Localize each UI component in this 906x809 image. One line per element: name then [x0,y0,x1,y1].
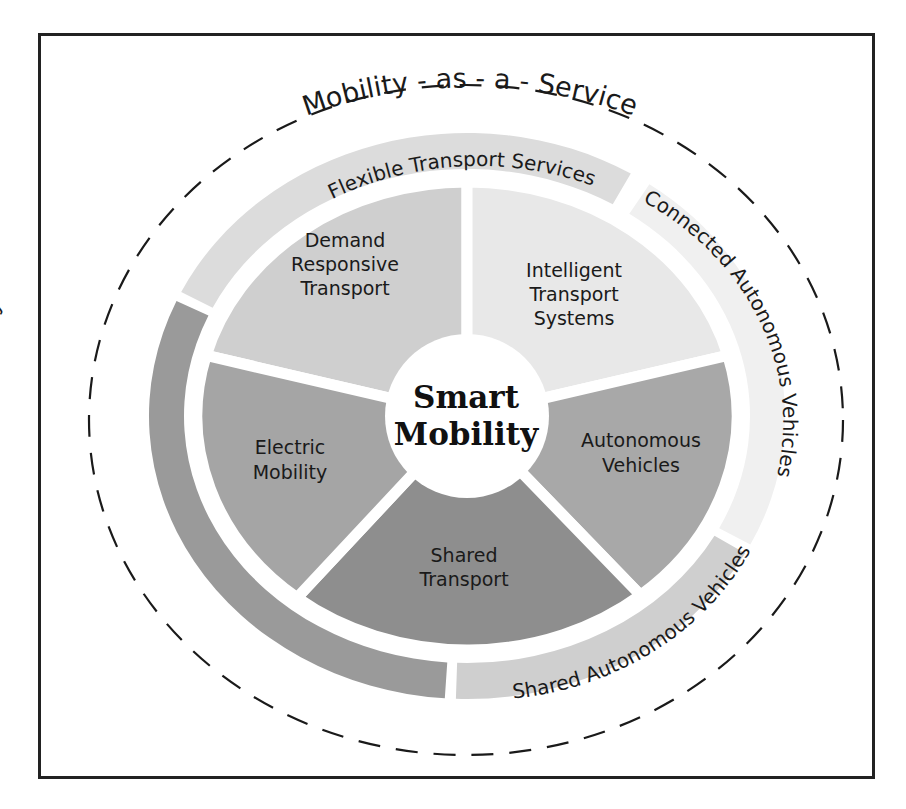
svg-text:Intelligent: Intelligent [526,259,622,281]
svg-text:Autonomous: Autonomous [581,429,701,451]
smart-mobility-diagram: Demand Responsive Transport Intelligent … [0,0,906,809]
maas-title: Mobility - as - a - Service [298,62,642,121]
svg-text:Transport: Transport [418,568,508,590]
segment-its-label: Intelligent Transport Systems [526,259,622,329]
svg-text:Transport: Transport [299,277,389,299]
svg-text:Responsive: Responsive [291,253,399,275]
svg-text:Mobility: Mobility [394,416,539,452]
center-label: Smart Mobility [394,379,539,452]
svg-text:Mobility: Mobility [253,461,328,483]
svg-text:Demand: Demand [305,229,386,251]
svg-text:Electric: Electric [255,436,325,458]
svg-text:Vehicles: Vehicles [602,454,680,476]
svg-text:Smart: Smart [413,379,520,415]
svg-text:Transport: Transport [528,283,618,305]
segment-drt-label: Demand Responsive Transport [291,229,399,299]
svg-text:Systems: Systems [534,307,615,329]
svg-text:Shared: Shared [431,544,498,566]
band-free-floating-label: Free-Floating E-Mobility [0,294,7,536]
